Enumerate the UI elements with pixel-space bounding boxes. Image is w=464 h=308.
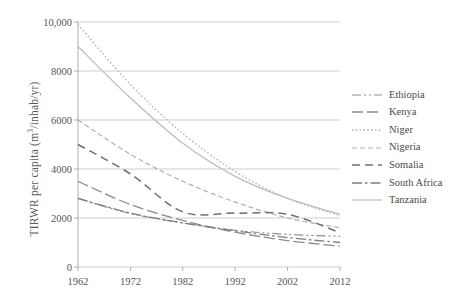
x-axis-tick-label: 2002 <box>277 276 298 287</box>
plot-svg <box>78 22 340 267</box>
legend-item-south-africa[interactable]: South Africa <box>352 174 464 192</box>
series-line-somalia <box>78 145 340 233</box>
x-axis-tick-label: 2012 <box>330 276 351 287</box>
series-line-kenya <box>78 181 340 246</box>
legend-label: Ethiopia <box>389 90 425 101</box>
y-axis-tick-label: 2000 <box>26 213 72 224</box>
legend-label: Tanzania <box>389 195 427 206</box>
legend-item-ethiopia[interactable]: Ethiopia <box>352 86 464 104</box>
y-axis-tick-label: 6000 <box>26 115 72 126</box>
legend-swatch-icon <box>352 90 382 100</box>
series-line-south-africa <box>78 198 340 242</box>
series-line-nigeria <box>78 120 340 228</box>
legend-item-somalia[interactable]: Somalia <box>352 156 464 174</box>
y-axis-tick-label: 8000 <box>26 66 72 77</box>
x-axis-tick-labels: 196219721982199220022012 <box>0 276 464 296</box>
legend-item-tanzania[interactable]: Tanzania <box>352 192 464 210</box>
plot-area <box>78 22 340 267</box>
series-line-ethiopia <box>78 198 340 236</box>
legend-label: Niger <box>389 125 413 136</box>
chart-container: TIRWR per capita (m3/inhab/yr) 020004000… <box>0 0 464 308</box>
legend-swatch-icon <box>352 160 382 170</box>
legend-item-niger[interactable]: Niger <box>352 121 464 139</box>
legend-swatch-icon <box>352 195 382 205</box>
data-series-group <box>78 24 340 246</box>
y-axis-tick-label: 4000 <box>26 164 72 175</box>
y-axis-tick-label: 10,000 <box>26 17 72 28</box>
legend-swatch-icon <box>352 107 382 117</box>
legend-item-nigeria[interactable]: Nigeria <box>352 139 464 157</box>
series-line-tanzania <box>78 47 340 215</box>
x-axis-tick-label: 1972 <box>120 276 141 287</box>
legend-label: Kenya <box>389 107 416 118</box>
x-axis-tick-label: 1992 <box>225 276 246 287</box>
y-axis-tick-label: 0 <box>26 262 72 273</box>
legend-swatch-icon <box>352 178 382 188</box>
legend-swatch-icon <box>352 143 382 153</box>
x-axis-tick-label: 1982 <box>172 276 193 287</box>
legend: EthiopiaKenyaNigerNigeriaSomaliaSouth Af… <box>352 86 464 209</box>
legend-label: South Africa <box>389 178 442 189</box>
legend-swatch-icon <box>352 125 382 135</box>
legend-label: Nigeria <box>389 142 421 153</box>
y-axis-tick-labels: 0200040006000800010,000 <box>24 0 72 308</box>
legend-item-kenya[interactable]: Kenya <box>352 104 464 122</box>
axis-lines <box>74 22 340 271</box>
x-axis-tick-label: 1962 <box>68 276 89 287</box>
gridlines <box>78 22 340 267</box>
legend-label: Somalia <box>389 160 423 171</box>
